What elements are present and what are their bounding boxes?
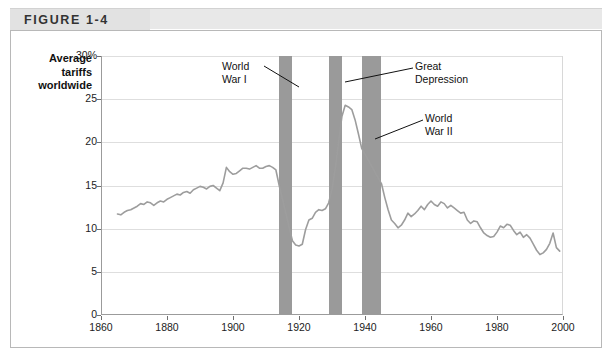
x-tick-mark-1960 — [431, 316, 432, 320]
y-tick-label-15: 15 — [85, 179, 97, 191]
x-tick-label-1940: 1940 — [345, 321, 385, 333]
y-tick-label-10: 10 — [85, 222, 97, 234]
figure-header-band: FIGURE 1-4 — [10, 8, 602, 29]
y-tick-label-30: 30% — [76, 49, 97, 61]
annotation-ww2-line1: World — [425, 112, 453, 125]
chart-plot-area — [101, 56, 563, 315]
x-tick-mark-1940 — [365, 316, 366, 320]
plot-inner — [101, 56, 563, 315]
y-tick-label-0: 0 — [91, 308, 97, 320]
x-tick-mark-1920 — [299, 316, 300, 320]
annotation-depression-line1: Great — [415, 60, 468, 73]
y-tick-label-25: 25 — [85, 92, 97, 104]
x-tick-mark-1980 — [497, 316, 498, 320]
annotation-world-war-i: World War I — [222, 60, 249, 86]
y-tick-label-20: 20 — [85, 135, 97, 147]
series-layer — [101, 56, 563, 315]
x-tick-label-1920: 1920 — [279, 321, 319, 333]
x-tick-label-1980: 1980 — [477, 321, 517, 333]
data-series-line-0 — [118, 105, 560, 254]
x-tick-label-2000: 2000 — [543, 321, 583, 333]
figure-container: FIGURE 1-4 Average tariffs worldwide 30%… — [0, 0, 612, 357]
annotation-world-war-ii: World War II — [425, 112, 453, 138]
x-tick-mark-1860 — [101, 316, 102, 320]
x-tick-mark-1880 — [167, 316, 168, 320]
y-axis-ticks: 30%2520151050 — [60, 0, 97, 357]
annotation-ww2-line2: War II — [425, 125, 453, 138]
x-tick-mark-1900 — [233, 316, 234, 320]
annotation-great-depression: Great Depression — [415, 60, 468, 86]
annotation-ww1-line2: War I — [222, 73, 249, 86]
x-tick-mark-2000 — [563, 316, 564, 320]
annotation-ww1-line1: World — [222, 60, 249, 73]
annotation-depression-line2: Depression — [415, 73, 468, 86]
x-tick-label-1860: 1860 — [81, 321, 121, 333]
x-tick-label-1900: 1900 — [213, 321, 253, 333]
x-tick-label-1960: 1960 — [411, 321, 451, 333]
y-tick-label-5: 5 — [91, 265, 97, 277]
x-tick-label-1880: 1880 — [147, 321, 187, 333]
